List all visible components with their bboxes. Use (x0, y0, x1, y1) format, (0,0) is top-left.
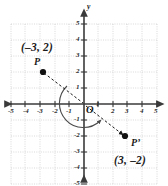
y-tick--2: -2 (74, 132, 80, 139)
coordinate-plane-figure: y O -5 -4 -3 -2 -1 1 2 3 4 5 5 4 3 2 1 -… (0, 0, 168, 186)
x-tick-2: 2 (111, 108, 115, 115)
point-P-prime-marker (122, 133, 128, 139)
y-tick--1: -1 (74, 116, 80, 123)
x-tick-4: 4 (140, 108, 144, 115)
point-P-coordinate-label: (–3, 2) (21, 42, 53, 54)
x-tick--4: -4 (23, 108, 29, 115)
y-tick--3: -3 (74, 148, 80, 155)
y-tick-5: 5 (76, 20, 80, 27)
x-tick-1: 1 (96, 101, 100, 108)
point-P-label: P (34, 57, 40, 67)
point-P-prime-label: P’ (131, 138, 140, 148)
point-P-marker (40, 69, 46, 75)
x-tick--1: -1 (66, 108, 72, 115)
x-tick--5: -5 (8, 108, 14, 115)
origin-label: O (86, 105, 94, 116)
y-tick--4: -4 (74, 164, 80, 171)
point-P-prime-coordinate-label: (3, –2) (114, 155, 146, 167)
x-tick--3: -3 (37, 108, 43, 115)
y-tick-4: 4 (76, 36, 80, 43)
y-tick-1: 1 (76, 84, 80, 91)
x-tick--2: -2 (52, 108, 58, 115)
y-tick--5: -5 (74, 180, 80, 186)
x-tick-3: 3 (125, 108, 129, 115)
y-tick-3: 3 (76, 52, 80, 59)
x-tick-5: 5 (154, 108, 158, 115)
y-axis-label: y (87, 3, 90, 11)
y-tick-2: 2 (76, 68, 80, 75)
